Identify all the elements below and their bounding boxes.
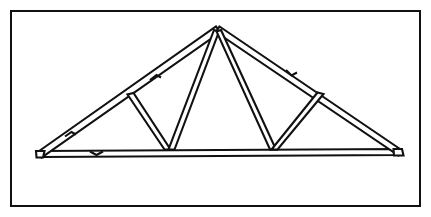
screenshot-root	[0, 0, 431, 217]
left-heel-joint	[36, 151, 45, 158]
roof-truss-drawing	[0, 0, 431, 217]
right-heel-joint	[394, 149, 404, 156]
web-left-outer-member	[128, 93, 171, 150]
web-right-outer-member	[272, 93, 324, 150]
truss-members	[36, 27, 404, 158]
